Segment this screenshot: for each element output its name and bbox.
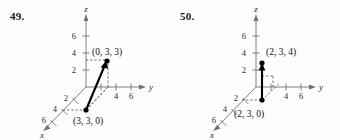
z-tick-label-4-49: 4 xyxy=(72,48,77,58)
axes-diagram-50: 2 4 6 z 4 6 y 2 4 6 x xyxy=(170,0,340,140)
z-tick-label-4-50: 4 xyxy=(242,48,247,58)
x-axis-label-50: x xyxy=(209,130,214,140)
y-tick-label-4-50: 4 xyxy=(284,91,289,101)
z-axis-arrowhead-50 xyxy=(254,14,259,21)
x-tick-2-50 xyxy=(243,98,249,104)
y-axis-label-49: y xyxy=(148,82,153,92)
x-tick-label-2-50: 2 xyxy=(234,93,238,103)
dashed-guide-floor2-49 xyxy=(86,87,108,110)
y-axis-arrowhead-49 xyxy=(139,85,146,90)
point-label-bottom-49: (3, 3, 0) xyxy=(73,116,103,127)
z-tick-label-2-49: 2 xyxy=(72,65,76,75)
point-marker-2-3-4 xyxy=(259,60,264,65)
point-label-top-49: (0, 3, 3) xyxy=(92,47,122,58)
y-tick-label-6-49: 6 xyxy=(129,91,133,101)
z-axis-label-50: z xyxy=(253,4,258,14)
point-marker-2-3-0 xyxy=(259,97,264,102)
axes-diagram-49: 2 4 6 z 4 6 y 2 4 6 x xyxy=(0,0,170,140)
y-axis-label-50: y xyxy=(318,82,323,92)
figure-50: 50. 2 4 6 z 4 6 y xyxy=(170,0,340,140)
point-label-bottom-50: (2, 3, 0) xyxy=(234,109,264,120)
x-tick-2-49 xyxy=(73,98,79,104)
point-marker-3-3-0 xyxy=(83,107,88,112)
point-label-top-50: (2, 3, 4) xyxy=(266,47,296,58)
textbook-figure-page: 49. 2 4 6 z 4 6 y xyxy=(0,0,340,140)
x-tick-label-4-49: 4 xyxy=(53,104,58,114)
z-tick-label-6-49: 6 xyxy=(72,31,76,41)
x-tick-label-4-50: 4 xyxy=(223,104,228,114)
y-axis-arrowhead-50 xyxy=(309,85,316,90)
z-tick-label-6-50: 6 xyxy=(242,31,246,41)
x-axis-label-49: x xyxy=(39,130,44,140)
x-tick-label-2-49: 2 xyxy=(64,93,68,103)
y-tick-label-6-50: 6 xyxy=(299,91,303,101)
x-tick-label-6-49: 6 xyxy=(42,115,46,125)
x-axis-arrowhead-49 xyxy=(43,125,51,131)
x-tick-label-6-50: 6 xyxy=(212,115,216,125)
x-axis-arrowhead-50 xyxy=(213,125,221,131)
vector-arrow-shaft-49 xyxy=(86,66,105,110)
z-axis-label-49: z xyxy=(83,4,88,14)
point-marker-0-3-3 xyxy=(104,58,109,63)
figure-49: 49. 2 4 6 z 4 6 y xyxy=(0,0,170,140)
y-tick-label-4-49: 4 xyxy=(114,91,119,101)
z-axis-arrowhead-49 xyxy=(84,14,89,21)
z-tick-label-2-50: 2 xyxy=(242,65,246,75)
